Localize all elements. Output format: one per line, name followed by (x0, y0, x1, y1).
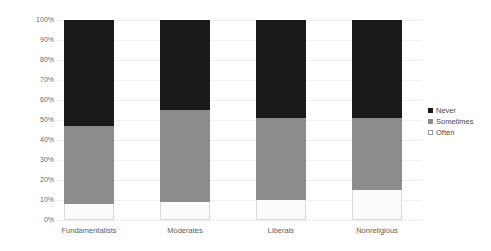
x-tick-label-nonreligious: Nonreligious (317, 226, 437, 235)
y-tick-label-70: 70% (20, 76, 54, 83)
legend-item-never: Never (428, 105, 490, 115)
plot-area: 100% 90% 80% 70% 60% 50% 40% 30% 20% 10%… (0, 0, 491, 251)
y-tick-label-40: 40% (20, 136, 54, 143)
y-tick-label-20: 20% (20, 176, 54, 183)
y-tick-label-10: 10% (20, 196, 54, 203)
y-axis: 100% 90% 80% 70% 60% 50% 40% 30% 20% 10%… (18, 0, 54, 251)
legend-swatch-often-icon (428, 130, 433, 135)
stacked-bar-chart: 100% 90% 80% 70% 60% 50% 40% 30% 20% 10%… (0, 0, 491, 251)
y-tick-label-90: 90% (20, 36, 54, 43)
bar-segment-liberals-sometimes (256, 118, 306, 200)
y-tick-label-30: 30% (20, 156, 54, 163)
legend-swatch-sometimes-icon (428, 119, 433, 124)
bar-segment-moderates-sometimes (160, 110, 210, 202)
bar-segment-fundamentalists-never (64, 20, 114, 126)
bar-segment-moderates-never (160, 20, 210, 110)
legend-label-often: Often (436, 128, 454, 137)
y-tick-label-80: 80% (20, 56, 54, 63)
legend-label-never: Never (436, 106, 456, 115)
legend-swatch-never-icon (428, 108, 433, 113)
y-tick-label-0: 0% (20, 216, 54, 223)
y-tick-label-100: 100% (20, 16, 54, 23)
y-tick-label-50: 50% (20, 116, 54, 123)
legend-item-often: Often (428, 127, 490, 137)
bar-segment-nonreligious-sometimes (352, 118, 402, 190)
legend-label-sometimes: Sometimes (436, 117, 474, 126)
y-tick-label-60: 60% (20, 96, 54, 103)
gridline (57, 220, 422, 221)
bar-segment-liberals-never (256, 20, 306, 118)
legend-item-sometimes: Sometimes (428, 116, 490, 126)
bar-segment-nonreligious-never (352, 20, 402, 118)
bar-segment-nonreligious-often (352, 190, 402, 220)
bar-segment-liberals-often (256, 200, 306, 220)
bar-segment-fundamentalists-sometimes (64, 126, 114, 204)
bar-segment-moderates-often (160, 202, 210, 220)
bar-segment-fundamentalists-often (64, 204, 114, 220)
chart-legend: Never Sometimes Often (428, 105, 490, 138)
